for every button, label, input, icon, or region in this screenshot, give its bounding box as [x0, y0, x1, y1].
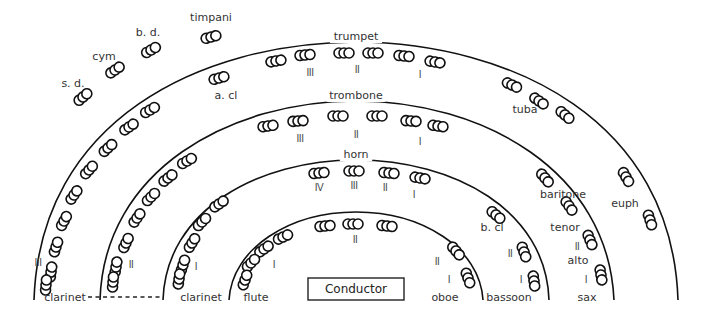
seat-icon: [127, 207, 147, 229]
section-label: a. cl: [215, 89, 238, 102]
seat-icon: [272, 228, 294, 246]
seat-icon: [48, 236, 64, 258]
section-label: tuba: [512, 103, 537, 116]
part-number: III: [297, 133, 304, 144]
seat-icon: [200, 30, 222, 45]
seat-icon: [140, 186, 161, 207]
part-number: I: [419, 136, 421, 147]
seat-icon: [117, 232, 135, 254]
seat-icon: [424, 55, 445, 68]
seat-icon: [265, 54, 286, 67]
seat-icon: [288, 115, 309, 126]
section-label: trombone: [329, 89, 383, 102]
part-number: II: [353, 234, 358, 245]
section-label: s. d.: [61, 77, 84, 90]
seat-icon: [139, 101, 161, 120]
band-seating-diagram: trumpettrombonehorntimpanib. d.cyms. d.a…: [0, 0, 713, 324]
seat-icon: [363, 48, 383, 58]
section-label: horn: [343, 148, 368, 161]
part-number: I: [273, 259, 275, 270]
section-label: bassoon: [486, 291, 532, 304]
seat-icon: [377, 220, 398, 232]
seat-icon: [446, 240, 467, 262]
seat-icon: [367, 111, 387, 121]
part-number: II: [354, 129, 359, 140]
part-number: I: [585, 274, 587, 285]
seat-icon: [315, 220, 336, 232]
seat-icon: [379, 167, 400, 179]
section-label: clarinet: [180, 291, 222, 304]
part-number: II: [129, 259, 134, 270]
section-label: b. d.: [136, 26, 160, 39]
seat-icon: [460, 267, 476, 289]
seat-icon: [104, 60, 126, 80]
seat-icon: [642, 209, 658, 231]
conductor-box: Conductor: [308, 278, 404, 300]
seat-icon: [427, 120, 448, 133]
part-number: II: [575, 241, 580, 252]
seat-icon: [182, 232, 201, 254]
part-number: I: [520, 274, 522, 285]
section-label: flute: [244, 291, 269, 304]
part-number: III: [35, 257, 42, 268]
section-label: euph: [611, 197, 639, 210]
seat-icon: [79, 159, 100, 181]
seat-icon: [157, 168, 179, 188]
seat-icon: [409, 171, 430, 184]
part-number: II: [435, 256, 440, 267]
part-number: I: [413, 189, 415, 200]
conductor-label: Conductor: [325, 282, 387, 296]
section-label: cym: [92, 50, 115, 63]
part-number: II: [508, 248, 513, 259]
section-label: timpani: [190, 11, 232, 24]
seat-icon: [501, 76, 523, 94]
seat-icon: [191, 211, 212, 232]
seat-icon: [237, 269, 253, 291]
seat-icon: [173, 268, 186, 289]
part-number: II: [383, 182, 388, 193]
seat-icon: [344, 166, 364, 176]
section-label: tenor: [550, 221, 580, 234]
section-label: b. cl: [480, 221, 503, 234]
seat-icon: [64, 184, 84, 206]
seat-icon: [118, 117, 140, 137]
seat-icon: [107, 272, 119, 293]
section-label: trumpet: [334, 30, 379, 43]
section-label: sax: [578, 291, 597, 304]
seat-icon: [554, 105, 576, 126]
part-number: III: [351, 180, 358, 191]
seat-icon: [334, 48, 354, 58]
section-label: alto: [568, 254, 589, 267]
part-number: III: [307, 67, 314, 78]
seat-icon: [528, 270, 541, 291]
seat-icon: [309, 167, 330, 179]
section-label: clarinet: [44, 291, 86, 304]
seat-icon: [617, 166, 636, 188]
seat-icon: [343, 219, 363, 229]
seat-icon: [257, 120, 278, 133]
section-label: baritone: [540, 188, 586, 201]
seat-icon: [295, 49, 316, 61]
part-number: II: [355, 64, 360, 75]
part-number: I: [419, 69, 421, 80]
seat-icon: [208, 71, 230, 86]
seat-icon: [594, 264, 607, 285]
seat-icon: [55, 210, 73, 232]
part-number: I: [448, 274, 450, 285]
part-number: I: [195, 261, 197, 272]
seat-icon: [140, 41, 162, 60]
seat-icon: [401, 115, 422, 126]
seat-icon: [208, 194, 230, 214]
section-label: oboe: [431, 291, 458, 304]
seat-icon: [328, 111, 348, 121]
seat-icon: [394, 50, 415, 62]
part-number: IV: [315, 182, 324, 193]
seat-icon: [97, 138, 119, 159]
seat-group: [40, 30, 658, 296]
seat-icon: [516, 241, 532, 263]
seat-icon: [582, 229, 599, 251]
